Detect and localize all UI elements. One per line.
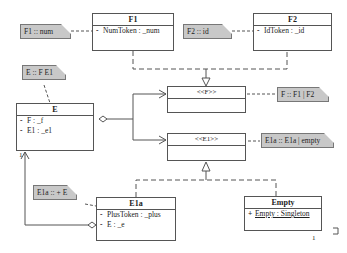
class-empty[interactable]: Empty +Empty : Singleton [244,196,322,231]
class-f2[interactable]: F2 -IdToken : _id [253,13,332,51]
class-e[interactable]: E -F : _f -E1 : _e1 [16,103,94,151]
class-e1a[interactable]: E1a -PlusToken : _plus -E : _e [96,197,176,241]
interface-e1-name: <<E1>> [168,134,245,146]
class-empty-attr: +Empty : Singleton [245,209,321,219]
note-e1[interactable]: E1a :: E1a | empty [261,133,334,148]
class-empty-name: Empty [245,197,321,209]
interface-f[interactable]: <<F>> [167,86,246,113]
class-e-attr-e1: -E1 : _e1 [17,126,93,136]
note-f[interactable]: F :: F1 | F2 [277,87,329,102]
note-f1[interactable]: F1 :: num [20,24,71,39]
class-e1a-attr-e: -E : _e [97,220,175,230]
interface-e1[interactable]: <<E1>> [167,133,246,161]
class-f1-name: F1 [93,14,173,26]
multiplicity-empty: 1 [312,234,316,242]
note-e[interactable]: E :: F E1 [22,65,66,80]
class-f2-name: F2 [254,14,331,26]
class-e-name: E [17,104,93,116]
class-e-attr-f: -F : _f [17,116,93,126]
interface-f-name: <<F>> [168,87,245,99]
note-f2[interactable]: F2 :: id [183,24,232,39]
multiplicity-e: 1 [19,151,23,159]
note-e1a[interactable]: E1a :: + E [33,185,77,200]
class-e1a-name: E1a [97,198,175,210]
class-f1[interactable]: F1 -NumToken : _num [92,13,174,51]
class-f2-attr: -IdToken : _id [254,26,331,36]
class-f1-attr: -NumToken : _num [93,26,173,36]
class-e1a-attr-plus: -PlusToken : _plus [97,210,175,220]
